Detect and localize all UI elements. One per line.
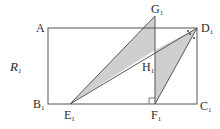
label-h1-sub: 1 (151, 67, 155, 75)
angle-dot-1 (187, 30, 189, 32)
label-c1-sub: 1 (208, 106, 212, 114)
right-angle-mark (149, 98, 155, 104)
label-b1-sub: 1 (41, 104, 45, 112)
angle-dot-2 (189, 33, 191, 35)
label-h1-text: H (142, 60, 151, 74)
label-f1: F1 (151, 109, 161, 123)
label-a: A (36, 22, 45, 34)
figure-label-sub: 1 (18, 67, 22, 75)
label-h1: H1 (142, 61, 154, 75)
angle-dot-3 (193, 37, 195, 39)
label-c1-text: C (200, 99, 208, 113)
figure-label-text: R (10, 59, 18, 74)
label-a-text: A (36, 21, 45, 35)
label-g1-sub: 1 (160, 9, 164, 17)
label-f1-sub: 1 (158, 115, 162, 123)
label-g1: G1 (151, 3, 163, 17)
label-d1-sub: 1 (210, 28, 214, 36)
label-b1: B1 (33, 98, 45, 112)
label-d1: D1 (201, 22, 213, 36)
label-g1-text: G (151, 2, 160, 16)
label-b1-text: B (33, 97, 41, 111)
label-d1-text: D (201, 21, 210, 35)
label-e1: E1 (64, 109, 75, 123)
label-c1: C1 (200, 100, 212, 114)
figure-label-r1: R1 (10, 60, 21, 75)
label-f1-text: F (151, 108, 158, 122)
label-e1-sub: 1 (71, 115, 75, 123)
